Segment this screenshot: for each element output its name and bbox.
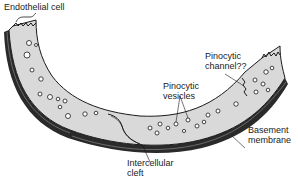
label-endothelial-cell: Endothelial cell	[4, 2, 65, 12]
basement-membrane-leader	[232, 136, 245, 148]
label-basement-membrane: Basement membrane	[248, 125, 291, 145]
capillary-diagram: Endothelial cell Pinocytic channel?? Pin…	[0, 0, 298, 182]
label-pinocytic-vesicles: Pinocytic vesicles	[163, 81, 199, 101]
label-pinocytic-channel: Pinocytic channel??	[205, 51, 247, 71]
label-intercellular-cleft: Intercellular cleft	[127, 158, 174, 178]
capillary-wall-illustration	[0, 0, 298, 182]
